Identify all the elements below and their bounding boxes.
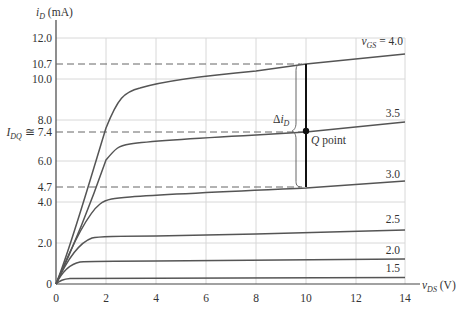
axes — [56, 20, 420, 284]
y-axis-title: iD (mA) — [36, 6, 73, 21]
curve-vgs-2-0 — [56, 259, 405, 284]
x-tick-12: 12 — [350, 292, 362, 304]
y-tick-10: 10.0 — [32, 73, 52, 85]
idq-label: IDQ ≅ 7.4 — [5, 126, 52, 141]
x-tick-labels: 0 2 4 6 8 10 12 14 — [53, 292, 411, 304]
x-tick-4: 4 — [153, 292, 159, 304]
q-point-marker — [303, 128, 309, 134]
y-tick-4: 4.0 — [38, 196, 53, 208]
x-tick-10: 10 — [300, 292, 312, 304]
y-tick-12: 12.0 — [32, 32, 52, 44]
x-tick-0: 0 — [53, 292, 59, 304]
x-axis-title: vDS (V) — [422, 279, 456, 294]
delta-id-label: ΔiD — [273, 113, 290, 128]
x-tick-2: 2 — [103, 292, 109, 304]
grid — [56, 38, 405, 284]
y-tick-0: 0 — [46, 278, 52, 290]
curve-label-4-0: vGS = 4.0 — [361, 35, 403, 50]
curve-label-2-0: 2.0 — [386, 244, 401, 256]
x-tick-6: 6 — [203, 292, 209, 304]
curve-vgs-3-0 — [56, 181, 405, 284]
curve-label-3-0: 3.0 — [386, 168, 401, 180]
chart-canvas: 12.0 10.7 10.0 8.0 6.0 4.7 4.0 2.0 0 IDQ… — [0, 0, 473, 311]
curve-label-1-5: 1.5 — [386, 262, 401, 274]
curve-label-2-5: 2.5 — [386, 213, 401, 225]
y-tick-4-7: 4.7 — [38, 181, 53, 193]
curve-vgs-4-0 — [56, 54, 405, 284]
curve-label-3-5: 3.5 — [386, 107, 401, 119]
curve-vgs-2-5 — [56, 230, 405, 284]
q-point-label: Q point — [311, 134, 347, 147]
curve-vgs-1-5 — [56, 278, 405, 285]
y-tick-8: 8.0 — [38, 114, 53, 126]
y-tick-10-7: 10.7 — [32, 58, 52, 70]
x-tick-14: 14 — [399, 292, 411, 304]
y-tick-6: 6.0 — [38, 155, 53, 167]
y-tick-labels: 12.0 10.7 10.0 8.0 6.0 4.7 4.0 2.0 0 — [32, 32, 52, 290]
curves — [56, 54, 405, 284]
x-tick-8: 8 — [253, 292, 259, 304]
y-tick-2: 2.0 — [38, 237, 53, 249]
delta-id-brace — [292, 64, 302, 187]
